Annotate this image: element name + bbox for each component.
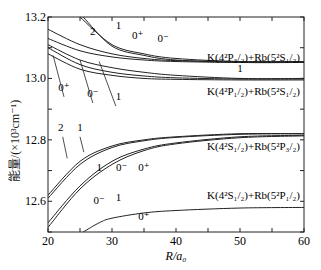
pointer-arrow [63, 137, 67, 159]
asymptote-label: K(4²S₁/₂)+Rb(5²P₃/₂) [207, 140, 300, 153]
curve-label: 0⁻ [94, 194, 106, 206]
curve-label: 1 [116, 191, 122, 203]
x-tick-label: 40 [170, 234, 182, 248]
y-tick-label: 13.2 [25, 10, 46, 24]
y-tick-label: 12.6 [25, 194, 46, 208]
x-tick-label: 30 [106, 234, 118, 248]
asymptote-label: K(4²S₁/₂)+Rb(5²P₁/₂) [207, 189, 300, 202]
y-tick-label: 13.0 [25, 71, 46, 85]
potential-curve [83, 207, 304, 232]
curve-label: 1 [116, 19, 122, 31]
curve-label: 2 [58, 121, 64, 133]
pointer-arrow [80, 137, 84, 152]
x-axis-label: R/a₀ [165, 249, 187, 263]
curve-label: 0⁺ [138, 210, 150, 222]
asymptote-label: K(4²P₃/₂)+Rb(5²S₁/₂) [207, 51, 300, 64]
x-tick-label: 60 [298, 234, 310, 248]
curve-label: 2 [90, 25, 96, 37]
curve-label: 1 [77, 121, 83, 133]
y-tick-label: 12.8 [25, 133, 46, 147]
x-tick-label: 50 [234, 234, 246, 248]
curve-label: 1 [237, 62, 243, 74]
x-tick-label: 20 [42, 234, 54, 248]
energy-curves-chart: 203040506012.612.813.013.2R/a₀K(4²P₃/₂)+… [0, 0, 321, 270]
curve-label: 0⁺ [138, 161, 150, 173]
asymptote-label: K(4²P₁/₂)+Rb(5²S₁/₂) [207, 85, 300, 98]
curve-label: 1 [116, 90, 122, 102]
curve-label: 0⁻ [116, 161, 128, 173]
curve-label: 0⁺ [132, 29, 144, 41]
curve-label: 0⁻ [158, 32, 170, 44]
curve-label: 1 [96, 161, 102, 173]
